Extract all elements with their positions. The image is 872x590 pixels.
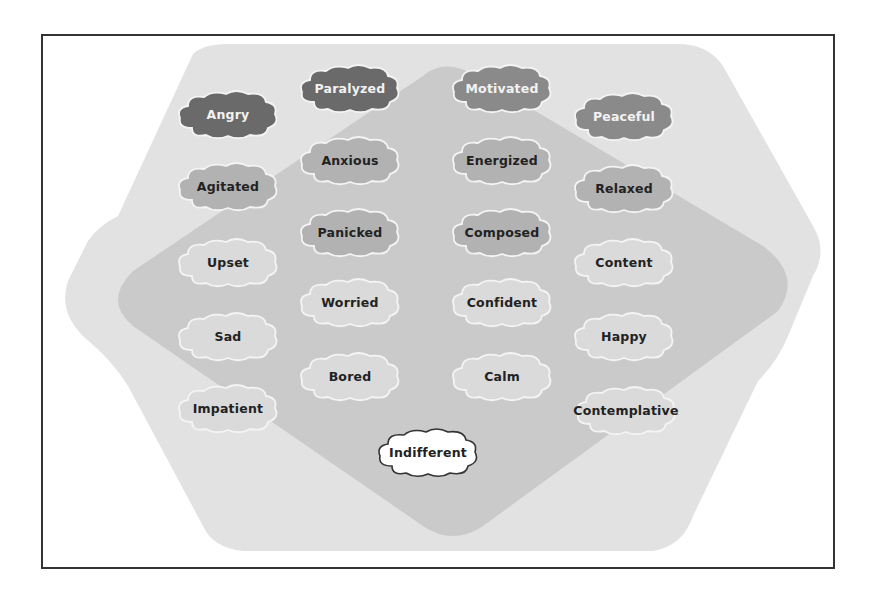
emotion-cloud-panicked: Panicked [296,206,404,258]
emotion-label: Bored [296,350,404,402]
emotion-label: Confident [448,276,556,328]
emotion-label: Happy [570,310,678,362]
emotion-label: Upset [174,236,282,288]
emotion-cloud-sad: Sad [174,310,282,362]
emotion-cloud-motivated: Motivated [448,62,556,114]
emotion-label: Impatient [174,382,282,434]
emotion-cloud-agitated: Agitated [174,160,282,212]
emotion-label: Composed [448,206,556,258]
emotion-label: Anxious [296,134,404,186]
emotion-cloud-content: Content [570,236,678,288]
emotion-cloud-worried: Worried [296,276,404,328]
emotion-label: Paralyzed [296,62,404,114]
emotion-label: Contemplative [572,384,680,436]
emotion-label: Peaceful [570,90,678,142]
diagram-frame: Angry Paralyzed Motivated Peaceful Agita… [41,34,835,569]
emotion-cloud-angry: Angry [174,88,282,140]
emotion-label: Agitated [174,160,282,212]
emotion-cloud-relaxed: Relaxed [570,162,678,214]
background-shapes [43,36,833,567]
emotion-label: Sad [174,310,282,362]
emotion-cloud-peaceful: Peaceful [570,90,678,142]
emotion-label: Indifferent [374,426,482,478]
emotion-cloud-impatient: Impatient [174,382,282,434]
emotion-cloud-bored: Bored [296,350,404,402]
emotion-label: Content [570,236,678,288]
emotion-cloud-upset: Upset [174,236,282,288]
emotion-label: Panicked [296,206,404,258]
emotion-cloud-anxious: Anxious [296,134,404,186]
emotion-label: Relaxed [570,162,678,214]
emotion-label: Motivated [448,62,556,114]
emotion-cloud-paralyzed: Paralyzed [296,62,404,114]
emotion-label: Energized [448,134,556,186]
emotion-cloud-calm: Calm [448,350,556,402]
emotion-cloud-contemplative: Contemplative [572,384,680,436]
emotion-cloud-indifferent: Indifferent [374,426,482,478]
emotion-cloud-energized: Energized [448,134,556,186]
emotion-label: Angry [174,88,282,140]
emotion-cloud-confident: Confident [448,276,556,328]
emotion-label: Calm [448,350,556,402]
emotion-cloud-happy: Happy [570,310,678,362]
emotion-cloud-composed: Composed [448,206,556,258]
emotion-label: Worried [296,276,404,328]
